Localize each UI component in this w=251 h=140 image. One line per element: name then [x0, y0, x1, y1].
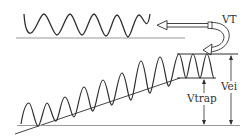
arrowhead-left-icon: [157, 21, 167, 30]
vt-label: VT: [221, 13, 237, 25]
vtrap-label: Vtrap: [186, 92, 217, 104]
output-arrow: [157, 21, 212, 30]
threshold-waveform-diagram: VT Vtrap Vei: [0, 0, 251, 140]
bottom-waveform: [21, 54, 214, 126]
arrowhead-curved-icon: [203, 44, 212, 55]
vei-label: Vei: [220, 80, 238, 92]
top-waveform: [24, 14, 150, 37]
